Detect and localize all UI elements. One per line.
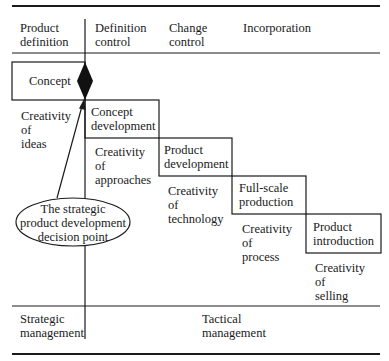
creativity-process: Creativity of process — [242, 222, 292, 264]
footer-tactical-management: Tactical management — [202, 312, 266, 340]
header-change-control: Change control — [169, 21, 207, 49]
stage-product-development: Product development — [164, 143, 229, 171]
stage-product-introduction: Product introduction — [313, 220, 374, 248]
footer-strategic-management: Strategic management — [20, 312, 84, 340]
stage-full-scale-production: Full-scale production — [239, 181, 293, 209]
stage-concept-development: Concept development — [91, 105, 156, 133]
header-definition-control: Definition control — [95, 21, 146, 49]
header-product-definition: Product definition — [20, 21, 69, 49]
creativity-selling: Creativity of selling — [315, 261, 365, 303]
creativity-ideas: Creativity of ideas — [21, 109, 71, 151]
decision-diamond-icon — [77, 62, 93, 100]
creativity-approaches: Creativity of approaches — [95, 145, 151, 187]
creativity-technology: Creativity of technology — [168, 184, 224, 226]
diagram-lines — [0, 0, 389, 361]
stage-concept: Concept — [29, 74, 71, 88]
decision-point-label: The strategic product development decisi… — [16, 202, 130, 244]
header-incorporation: Incorporation — [243, 21, 311, 35]
